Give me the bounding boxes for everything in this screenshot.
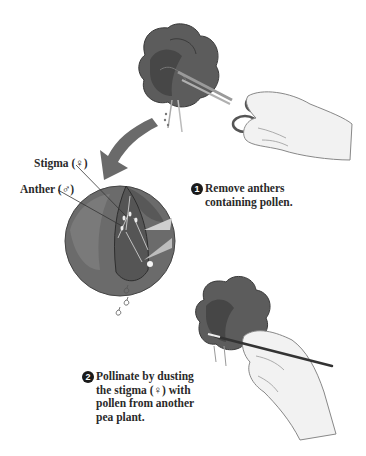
step-2-line-2: the stigma (♀) with [82,384,194,398]
step-1-number-badge: 1 [191,183,203,195]
stigma-label: Stigma (♀) [34,157,88,170]
step-2-line-1: Pollinate by dusting [96,370,194,382]
step-2-caption: 2Pollinate by dusting the stigma (♀) wit… [82,370,194,424]
step-1-caption: 1Remove anthers containing pollen. [191,182,293,209]
step-1-line-2: containing pollen. [191,196,293,210]
arrow-down-icon [100,118,158,180]
step-2-line-3: pollen from another [82,397,194,411]
magnified-flower-view [65,186,175,296]
step-2-line-4: pea plant. [82,411,194,425]
flower-top-icon [139,24,219,132]
step-2-number-badge: 2 [82,371,94,383]
step-1-line-1: Remove anthers [205,182,285,194]
anther-label: Anther (♂) [20,183,74,196]
hand-top-icon [244,92,352,160]
